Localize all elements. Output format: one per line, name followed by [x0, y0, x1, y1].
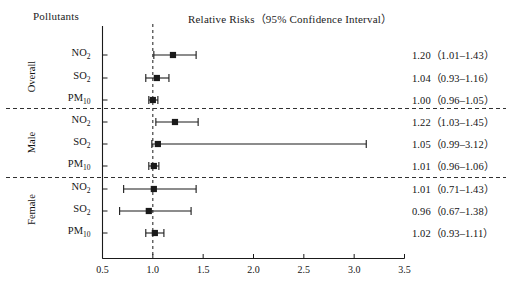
forest-row-marker: [146, 74, 169, 82]
point-estimate-marker: [152, 230, 158, 236]
row-label-subscript: 2: [87, 141, 91, 150]
row-label-text: PM: [68, 92, 83, 103]
point-estimate-marker: [170, 52, 176, 58]
row-label-overall-no2: NO2: [31, 47, 91, 61]
row-label-text: NO: [72, 181, 87, 192]
value-label-female-pm10: 1.02（0.93–1.11）: [412, 225, 494, 240]
value-label-female-no2: 1.01（0.71–1.43）: [412, 181, 494, 196]
row-label-text: PM: [68, 158, 83, 169]
value-label-male-pm10: 1.01（0.96–1.06）: [412, 158, 494, 173]
forest-row-marker: [149, 96, 158, 104]
forest-row-marker: [120, 207, 191, 215]
row-label-subscript: 2: [87, 75, 91, 84]
point-estimate-marker: [172, 119, 178, 125]
group-label-overall: Overall: [26, 54, 37, 100]
row-label-female-so2: SO2: [31, 203, 91, 217]
row-label-overall-pm10: PM10: [31, 92, 91, 106]
row-label-subscript: 2: [87, 52, 91, 61]
x-tick-label-3.0: 3.0: [348, 264, 361, 275]
x-tick-label-2.5: 2.5: [298, 264, 311, 275]
row-label-overall-so2: SO2: [31, 70, 91, 84]
forest-row-marker: [156, 118, 198, 126]
row-label-subscript: 2: [87, 208, 91, 217]
value-label-overall-so2: 1.04（0.93–1.16）: [412, 70, 494, 85]
x-tick-label-0.5: 0.5: [96, 264, 109, 275]
point-estimate-marker: [155, 141, 161, 147]
x-tick-label-1.0: 1.0: [147, 264, 160, 275]
row-label-subscript: 10: [83, 230, 91, 239]
x-tick-label-3.5: 3.5: [398, 264, 411, 275]
point-estimate-marker: [150, 97, 156, 103]
forest-row-marker: [146, 229, 164, 237]
x-tick-label-2.0: 2.0: [247, 264, 260, 275]
row-label-text: NO: [72, 47, 87, 58]
row-label-text: PM: [68, 225, 83, 236]
row-label-subscript: 10: [83, 163, 91, 172]
value-label-male-no2: 1.22（1.03–1.45）: [412, 114, 494, 129]
row-label-text: SO: [73, 203, 86, 214]
point-estimate-marker: [151, 186, 157, 192]
row-label-male-no2: NO2: [31, 114, 91, 128]
group-label-female: Female: [26, 187, 37, 233]
value-label-overall-pm10: 1.00（0.96–1.05）: [412, 92, 494, 107]
row-label-female-pm10: PM10: [31, 225, 91, 239]
row-label-male-so2: SO2: [31, 136, 91, 150]
row-label-subscript: 2: [87, 186, 91, 195]
row-label-female-no2: NO2: [31, 181, 91, 195]
value-label-male-so2: 1.05（0.99–3.12）: [412, 136, 494, 151]
point-estimate-marker: [154, 75, 160, 81]
value-label-female-so2: 0.96（0.67–1.38）: [412, 203, 494, 218]
row-label-text: SO: [73, 70, 86, 81]
point-estimate-marker: [151, 163, 157, 169]
forest-row-marker: [149, 162, 159, 170]
row-label-text: NO: [72, 114, 87, 125]
value-label-overall-no2: 1.20（1.01–1.43）: [412, 47, 494, 62]
row-label-male-pm10: PM10: [31, 158, 91, 172]
row-label-subscript: 2: [87, 119, 91, 128]
x-tick-label-1.5: 1.5: [197, 264, 210, 275]
row-label-text: SO: [73, 136, 86, 147]
point-estimate-marker: [146, 208, 152, 214]
row-label-subscript: 10: [83, 97, 91, 106]
forest-row-marker: [154, 51, 196, 59]
group-label-male: Male: [26, 120, 37, 166]
forest-row-marker: [124, 185, 196, 193]
forest-row-marker: [152, 140, 366, 148]
